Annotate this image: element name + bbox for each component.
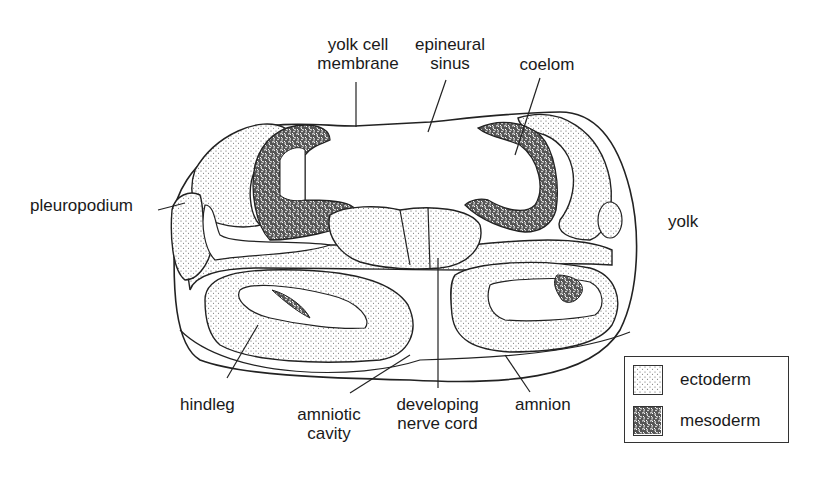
legend-label-mesoderm: mesoderm <box>680 411 760 431</box>
label-amniotic-line1: amniotic <box>284 405 374 424</box>
mesoderm-swatch-icon <box>633 406 663 436</box>
label-amniotic-line2: cavity <box>284 424 374 443</box>
legend-item-mesoderm: mesoderm <box>633 406 760 436</box>
legend-label-ectoderm: ectoderm <box>680 370 751 390</box>
right-bulb <box>598 202 622 238</box>
label-yolk-cell-line2: membrane <box>300 54 416 73</box>
label-developing-line2: nerve cord <box>385 414 490 433</box>
label-epineural-sinus: epineural sinus <box>410 35 490 73</box>
label-developing-line1: developing <box>385 395 490 414</box>
label-amnion: amnion <box>515 395 571 414</box>
label-yolk-cell-membrane: yolk cell membrane <box>300 35 416 73</box>
left-coelom-space <box>280 148 305 201</box>
legend: ectoderm mesoderm <box>624 356 789 443</box>
right-hindleg-lumen <box>488 279 602 321</box>
label-epineural-line2: sinus <box>410 54 490 73</box>
label-yolk-cell-line1: yolk cell <box>300 35 416 54</box>
label-epineural-line1: epineural <box>410 35 490 54</box>
label-pleuropodium: pleuropodium <box>30 196 133 215</box>
ectoderm-swatch-icon <box>633 365 663 395</box>
label-hindleg: hindleg <box>180 395 235 414</box>
label-yolk: yolk <box>668 212 698 231</box>
label-developing-nerve-cord: developing nerve cord <box>385 395 490 433</box>
legend-item-ectoderm: ectoderm <box>633 365 751 395</box>
label-amniotic-cavity: amniotic cavity <box>284 405 374 443</box>
label-coelom: coelom <box>512 55 582 74</box>
